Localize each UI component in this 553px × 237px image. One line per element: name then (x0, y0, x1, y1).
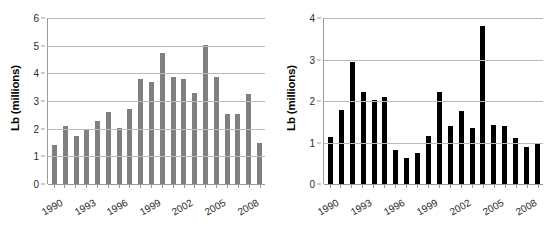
y-tick-mark-4 (317, 18, 321, 19)
gridline-2 (324, 101, 543, 102)
bar (214, 77, 219, 184)
x-tick-label-1990: 1990 (316, 197, 341, 218)
bar (171, 77, 176, 184)
y-tick-label-3: 3 (309, 54, 315, 65)
bar (149, 82, 154, 184)
bar (480, 26, 485, 184)
gridline-4 (324, 18, 543, 19)
bar (491, 125, 496, 184)
bar (63, 126, 68, 184)
bar (95, 121, 100, 184)
bar (470, 128, 475, 184)
y-tick-mark-1 (41, 156, 45, 157)
y-tick-mark-0 (41, 184, 45, 185)
gridline-1 (48, 156, 265, 157)
y-tick-label-2: 2 (309, 96, 315, 107)
bar (513, 138, 518, 184)
bar (437, 92, 442, 184)
bar (415, 153, 420, 184)
y-tick-mark-2 (317, 101, 321, 102)
right-plot-area (323, 18, 543, 184)
bar (535, 143, 540, 184)
bar (225, 114, 230, 184)
bar (235, 114, 240, 184)
y-tick-mark-2 (41, 128, 45, 129)
bar (74, 136, 79, 184)
gridline-5 (48, 46, 265, 47)
bar (192, 93, 197, 184)
y-tick-mark-1 (317, 142, 321, 143)
bar (52, 145, 57, 184)
bar (524, 147, 529, 184)
x-tick-label-2002: 2002 (170, 197, 195, 218)
y-tick-label-3: 3 (33, 96, 39, 107)
bar (138, 79, 143, 184)
bar (502, 126, 507, 184)
right-x-axis-labels: 1990199319961999200220052008 (323, 188, 543, 236)
left-chart-panel: Lb (millions) 0123456 199019931996199920… (0, 0, 276, 237)
x-tick-label-1993: 1993 (349, 197, 374, 218)
y-tick-label-2: 2 (33, 123, 39, 134)
y-tick-label-4: 4 (33, 68, 39, 79)
y-tick-mark-3 (317, 59, 321, 60)
y-tick-label-6: 6 (33, 13, 39, 24)
y-tick-label-1: 1 (33, 151, 39, 162)
left-y-axis-ticks: 0123456 (20, 18, 45, 184)
left-plot-area (47, 18, 265, 184)
bar (181, 79, 186, 184)
y-tick-mark-6 (41, 18, 45, 19)
bar (404, 158, 409, 184)
x-tick-label-2005: 2005 (203, 197, 228, 218)
gridline-4 (48, 73, 265, 74)
bar (257, 143, 262, 184)
x-tick-label-1990: 1990 (40, 197, 65, 218)
gridline-3 (48, 101, 265, 102)
bar (350, 62, 355, 184)
bar (339, 110, 344, 184)
x-tick-label-1999: 1999 (138, 197, 163, 218)
right-y-axis-ticks: 01234 (296, 18, 321, 184)
y-tick-mark-3 (41, 101, 45, 102)
y-tick-label-5: 5 (33, 40, 39, 51)
bar (127, 109, 132, 184)
bar (106, 112, 111, 184)
bar (382, 97, 387, 184)
y-tick-mark-5 (41, 45, 45, 46)
x-tick-label-2002: 2002 (448, 197, 473, 218)
y-tick-mark-0 (317, 184, 321, 185)
gridline-2 (48, 129, 265, 130)
bar (393, 150, 398, 184)
bar (328, 137, 333, 184)
x-tick-label-1996: 1996 (382, 197, 407, 218)
gridline-3 (324, 60, 543, 61)
y-tick-label-1: 1 (309, 137, 315, 148)
x-tick-label-2005: 2005 (480, 197, 505, 218)
gridline-1 (324, 143, 543, 144)
bar (459, 111, 464, 184)
y-tick-label-0: 0 (33, 179, 39, 190)
bar (448, 126, 453, 184)
y-tick-label-0: 0 (309, 179, 315, 190)
gridline-6 (48, 18, 265, 19)
bar (361, 92, 366, 184)
bar (246, 94, 251, 184)
x-tick-label-1999: 1999 (415, 197, 440, 218)
figure-two-bar-charts: Lb (millions) 0123456 199019931996199920… (0, 0, 553, 237)
left-x-axis-labels: 1990199319961999200220052008 (47, 188, 265, 236)
right-chart-panel: Lb (millions) 01234 19901993199619992002… (276, 0, 552, 237)
x-tick-label-2008: 2008 (513, 197, 538, 218)
x-tick-label-1996: 1996 (105, 197, 130, 218)
y-tick-label-4: 4 (309, 13, 315, 24)
y-tick-mark-4 (41, 73, 45, 74)
x-tick-label-2008: 2008 (235, 197, 260, 218)
bar (203, 45, 208, 184)
x-tick-label-1993: 1993 (73, 197, 98, 218)
